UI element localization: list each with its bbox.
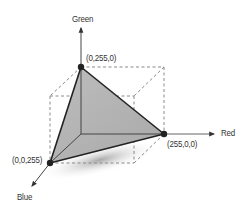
green-vertex-dot <box>78 64 84 70</box>
red-vertex-dot <box>161 131 167 137</box>
blue-axis-label: Blue <box>17 192 32 202</box>
rgb-tetrahedron-diagram <box>0 0 248 213</box>
green-axis-label: Green <box>72 14 93 24</box>
green-vertex-label: (0,255,0) <box>86 53 116 63</box>
red-vertex-label: (255,0,0) <box>167 139 197 149</box>
red-axis-label: Red <box>221 128 235 138</box>
blue-vertex-label: (0,0,255) <box>12 155 42 165</box>
blue-vertex-dot <box>47 160 53 166</box>
